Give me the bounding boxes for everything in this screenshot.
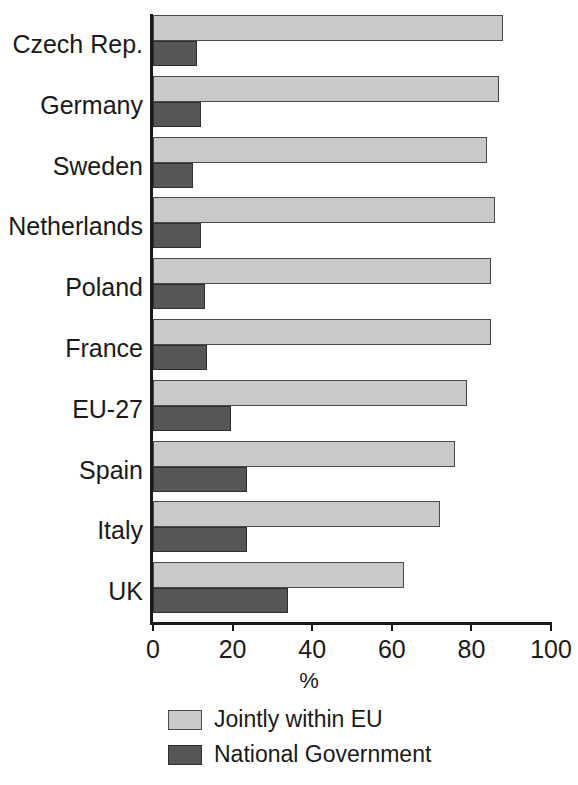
category-label: Czech Rep. [0,23,143,65]
x-axis-title-text: % [299,668,319,693]
x-tick-label-20: 20 [219,634,247,664]
bar-national [153,102,201,127]
x-tick-100 [550,622,552,631]
bar-national [153,163,193,188]
category-label: UK [0,570,143,612]
legend-item-national: National Government [168,739,431,770]
bar-national [153,527,247,552]
bar-joint [153,319,491,345]
bar-joint [153,501,440,527]
category-label: Italy [0,509,143,551]
x-tick-label-60: 60 [378,634,406,664]
bar-joint [153,258,491,284]
legend-swatch-joint-icon [168,710,202,730]
bar-group: UK [0,561,578,622]
bar-national [153,406,231,431]
bar-joint [153,197,495,223]
bar-joint [153,562,404,588]
x-tick-label-100: 100 [530,634,572,664]
legend-item-joint: Jointly within EU [168,704,431,735]
chart-legend: Jointly within EU National Government [168,704,431,774]
category-label: Germany [0,84,143,126]
x-tick-label-40: 40 [298,634,326,664]
bar-group: Poland [0,257,578,318]
legend-label-joint: Jointly within EU [214,704,383,735]
bar-group: France [0,318,578,379]
bar-national [153,345,207,370]
category-label: Poland [0,266,143,308]
bar-national [153,588,288,613]
bar-group: Netherlands [0,196,578,257]
x-axis-line [150,622,551,625]
category-label: EU-27 [0,388,143,430]
bar-national [153,284,205,309]
legend-swatch-national-icon [168,745,202,765]
x-tick-40 [311,622,313,631]
bar-group: Czech Rep. [0,14,578,75]
legend-label-national: National Government [214,739,431,770]
x-tick-label-0: 0 [146,634,160,664]
x-tick-20 [232,622,234,631]
bar-joint [153,15,503,41]
bar-joint [153,441,455,467]
x-tick-80 [470,622,472,631]
category-label: Spain [0,449,143,491]
bar-chart: 020406080100 % Czech Rep.GermanySwedenNe… [0,0,578,785]
category-label: Sweden [0,145,143,187]
x-tick-label-80: 80 [457,634,485,664]
bar-joint [153,76,499,102]
bar-national [153,41,197,66]
x-tick-60 [391,622,393,631]
category-label: Netherlands [0,205,143,247]
bar-group: Sweden [0,136,578,197]
category-label: France [0,327,143,369]
bar-national [153,467,247,492]
bar-joint [153,137,487,163]
bar-group: Italy [0,500,578,561]
bar-group: EU-27 [0,379,578,440]
bar-group: Spain [0,440,578,501]
bar-group: Germany [0,75,578,136]
bar-national [153,223,201,248]
bar-joint [153,380,467,406]
x-tick-0 [152,622,154,631]
x-axis-title: % [0,668,578,694]
